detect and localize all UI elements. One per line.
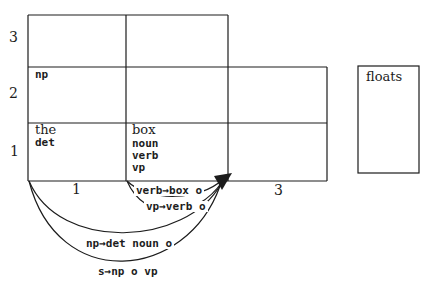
col-label-3: 3 xyxy=(274,183,283,197)
edge-label-s-np-vp: s→np o vp xyxy=(96,266,160,277)
row-label-2: 2 xyxy=(9,86,18,100)
cell-row1-col1-category: det xyxy=(35,137,55,148)
edge-label-verb-box: verb→box o xyxy=(134,185,204,196)
chart-grid-and-edges xyxy=(0,0,432,294)
cell-row1-col2-word: box xyxy=(132,123,155,136)
col-label-1: 1 xyxy=(72,182,81,196)
chart-parsing-figure: 3 2 1 1 3 np the det box noun verb vp fl… xyxy=(0,0,432,294)
edge-label-vp-verb: vp→verb o xyxy=(144,201,208,212)
edge-label-np-det-noun: np→det noun o xyxy=(84,238,174,249)
pending-input-word: floats xyxy=(366,70,402,83)
cell-row1-col2-category-2: verb xyxy=(132,150,159,161)
cell-row1-col2-category-3: vp xyxy=(132,162,145,173)
cell-row2-col1-category: np xyxy=(35,69,48,80)
row-label-3: 3 xyxy=(9,30,18,44)
row-label-1: 1 xyxy=(10,144,19,158)
cell-row1-col1-word: the xyxy=(35,123,56,136)
cell-row1-col2-category-1: noun xyxy=(132,138,159,149)
